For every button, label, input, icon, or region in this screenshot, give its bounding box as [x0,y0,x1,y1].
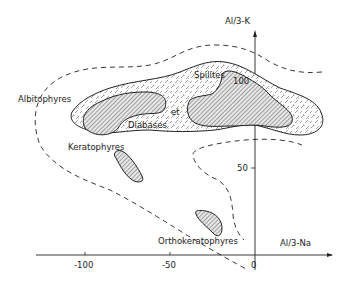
y-axis [251,30,257,270]
albitophyres-label: Albitophyres [18,95,71,104]
orthokeratophyres-label: Orthokeratophyres [158,237,238,246]
y-tick-100: 100 [233,77,249,86]
x-axis-label: Al/3-Na [280,239,311,248]
et-label: et [171,108,180,117]
y-axis-label: Al/3-K [225,17,250,26]
x-tick-minus-50: -50 [162,261,176,270]
y-tick-50: 50 [237,164,248,173]
x-tick-0: 0 [251,261,256,270]
orthokeratophyres-field [196,210,222,235]
diabases-label: Diabases [128,121,167,130]
keratophyres-label: Keratophyres [68,143,124,152]
keratophyres-field [114,151,142,182]
x-tick-minus-100: -100 [74,261,93,270]
spilites-label: Spilites [194,71,225,80]
x-axis [36,252,333,257]
